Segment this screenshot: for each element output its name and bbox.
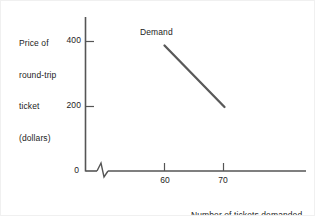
x-tick-label-60: 60	[153, 175, 177, 186]
y-axis-label-line-1: Price of	[19, 38, 56, 49]
y-tick-label-200: 200	[56, 100, 81, 111]
x-axis-label-line-1: Number of tickets demanded	[191, 210, 302, 216]
x-tick-label-70: 70	[211, 175, 235, 186]
y-axis-label: Price of round-trip ticket (dollars)	[19, 17, 56, 164]
demand-curve-label: Demand	[140, 27, 173, 38]
y-axis-label-line-3: ticket	[19, 101, 56, 112]
chart-canvas: Price of round-trip ticket (dollars) 400…	[0, 0, 315, 216]
y-axis-label-line-4: (dollars)	[19, 133, 56, 144]
y-tick-label-400: 400	[56, 35, 81, 46]
origin-label: 0	[65, 165, 79, 176]
x-axis-label: Number of tickets demanded per year (tho…	[191, 189, 302, 216]
demand-curve-line	[165, 46, 225, 108]
y-axis-label-line-2: round-trip	[19, 70, 56, 81]
x-axis-break-icon	[97, 163, 108, 177]
